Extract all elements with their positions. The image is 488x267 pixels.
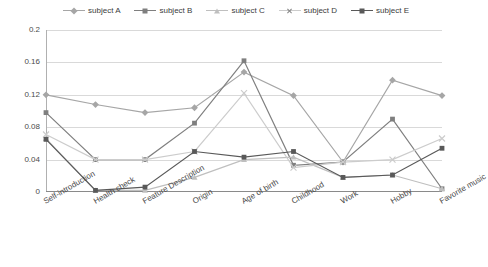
data-point <box>341 175 346 180</box>
legend-label: subject B <box>159 6 192 15</box>
legend-swatch <box>206 10 228 11</box>
data-point <box>142 109 149 116</box>
y-tick-label: 0.2 <box>0 25 40 34</box>
y-tick-label: 0.08 <box>0 122 40 131</box>
legend-swatch <box>279 10 301 11</box>
data-point <box>390 117 395 122</box>
data-point <box>192 121 197 126</box>
data-point <box>92 101 99 108</box>
data-point <box>439 92 446 99</box>
data-point <box>291 149 296 154</box>
legend-marker-x <box>287 8 292 13</box>
legend-swatch <box>134 10 156 11</box>
data-point <box>192 149 197 154</box>
series-lines <box>46 30 442 192</box>
legend-label: subject A <box>88 6 120 15</box>
legend-label: subject E <box>376 6 409 15</box>
legend-label: subject D <box>304 6 337 15</box>
data-point <box>440 146 445 151</box>
x-tick-label: Favorite music <box>438 172 488 206</box>
legend-marker-triangle <box>214 8 220 13</box>
series-line-subject-b <box>46 61 442 189</box>
series-line-subject-c <box>46 139 442 191</box>
legend-item-subject-d[interactable]: subject D <box>279 6 337 15</box>
data-point <box>389 77 396 84</box>
data-point <box>390 173 395 178</box>
y-tick-label: 0.12 <box>0 90 40 99</box>
legend-marker-square <box>143 8 148 13</box>
chart-legend: subject Asubject Bsubject Csubject Dsubj… <box>0 6 472 15</box>
plot-area <box>46 30 442 192</box>
legend-swatch <box>63 10 85 11</box>
x-axis-labels: Self-introductionHealth checkFeature Des… <box>46 196 442 266</box>
legend-item-subject-e[interactable]: subject E <box>351 6 409 15</box>
y-tick-label: 0.16 <box>0 57 40 66</box>
data-point <box>93 188 98 193</box>
data-point <box>242 58 247 63</box>
legend-item-subject-b[interactable]: subject B <box>134 6 192 15</box>
data-point <box>439 136 445 142</box>
series-line-subject-e <box>46 139 442 190</box>
legend-marker-diamond <box>70 7 77 14</box>
data-point <box>143 185 148 190</box>
data-point <box>44 110 49 115</box>
series-line-subject-a <box>46 72 442 162</box>
y-tick-label: 0.04 <box>0 155 40 164</box>
data-point <box>241 90 247 96</box>
legend-item-subject-a[interactable]: subject A <box>63 6 120 15</box>
data-point <box>43 91 50 98</box>
data-point <box>242 155 247 160</box>
legend-label: subject C <box>231 6 264 15</box>
legend-marker-square-dark <box>360 8 365 13</box>
y-tick-label: 0 <box>0 187 40 196</box>
data-point <box>44 137 49 142</box>
legend-item-subject-c[interactable]: subject C <box>206 6 264 15</box>
legend-swatch <box>351 10 373 11</box>
